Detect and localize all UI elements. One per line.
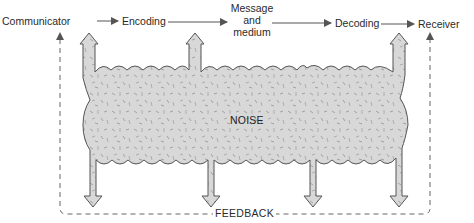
node-communicator: Communicator bbox=[2, 15, 70, 27]
node-decoding: Decoding bbox=[335, 17, 379, 29]
node-encoding: Encoding bbox=[122, 15, 166, 27]
node-message-line-2: and bbox=[230, 14, 274, 26]
node-message-and-medium: Message and medium bbox=[230, 2, 274, 38]
node-message-line-1: Message bbox=[230, 2, 274, 14]
feedback-arrowhead-left bbox=[56, 32, 64, 40]
node-receiver: Receiver bbox=[418, 18, 459, 30]
feedback-label: FEEDBACK bbox=[213, 207, 276, 219]
feedback-arrowhead-right bbox=[426, 32, 434, 40]
node-message-line-3: medium bbox=[230, 26, 274, 38]
noise-label: NOISE bbox=[230, 114, 264, 126]
